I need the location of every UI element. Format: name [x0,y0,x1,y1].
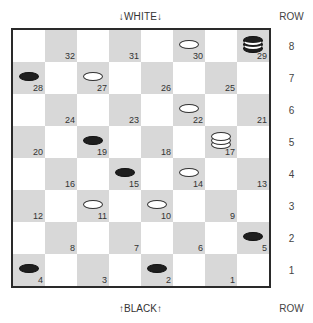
square-number: 15 [129,180,139,189]
square-number: 22 [193,116,203,125]
row-number-8: 8 [270,41,313,52]
light-square [77,158,109,190]
light-square [173,190,205,222]
light-square [13,94,45,126]
square-number: 29 [257,52,267,61]
board-square-30[interactable]: 30 [173,30,205,62]
board-square-12[interactable]: 12 [13,190,45,222]
square-number: 28 [33,84,43,93]
board-square-9[interactable]: 9 [205,190,237,222]
light-square [141,158,173,190]
board-square-29[interactable]: 29 [237,30,269,62]
square-number: 16 [65,180,75,189]
light-square [205,30,237,62]
square-number: 27 [97,84,107,93]
square-number: 3 [102,276,107,285]
light-square [109,126,141,158]
white-side-label: ↓WHITE↓ [11,11,270,22]
light-square [173,126,205,158]
light-square [141,222,173,254]
row-number-6: 6 [270,105,313,116]
square-number: 31 [129,52,139,61]
light-square [237,126,269,158]
square-number: 20 [33,148,43,157]
square-number: 23 [129,116,139,125]
board-square-24[interactable]: 24 [45,94,77,126]
row-header-bottom: ROW [270,303,313,314]
board-square-23[interactable]: 23 [109,94,141,126]
square-number: 1 [230,276,235,285]
board-square-17[interactable]: 17 [205,126,237,158]
board-square-13[interactable]: 13 [237,158,269,190]
row-number-1: 1 [270,265,313,276]
black-side-label: ↑BLACK↑ [11,303,270,314]
light-square [13,30,45,62]
square-number: 8 [70,244,75,253]
light-square [77,94,109,126]
board-square-21[interactable]: 21 [237,94,269,126]
board-square-7[interactable]: 7 [109,222,141,254]
board-square-2[interactable]: 2 [141,254,173,286]
board-square-8[interactable]: 8 [45,222,77,254]
light-square [237,190,269,222]
light-square [205,158,237,190]
board-square-1[interactable]: 1 [205,254,237,286]
board-square-31[interactable]: 31 [109,30,141,62]
square-number: 17 [225,148,235,157]
row-number-3: 3 [270,201,313,212]
square-number: 4 [38,276,43,285]
light-square [173,254,205,286]
row-number-5: 5 [270,137,313,148]
black-piece-icon[interactable] [243,222,263,254]
board-square-25[interactable]: 25 [205,62,237,94]
board-square-26[interactable]: 26 [141,62,173,94]
board-square-3[interactable]: 3 [77,254,109,286]
square-number: 12 [33,212,43,221]
light-square [205,94,237,126]
board-square-18[interactable]: 18 [141,126,173,158]
light-square [45,190,77,222]
light-square [13,158,45,190]
black-piece-icon[interactable] [19,254,39,286]
board-square-32[interactable]: 32 [45,30,77,62]
light-square [109,62,141,94]
square-number: 5 [262,244,267,253]
light-square [45,254,77,286]
square-number: 25 [225,84,235,93]
square-number: 19 [97,148,107,157]
light-square [45,62,77,94]
row-number-7: 7 [270,73,313,84]
square-number: 10 [161,212,171,221]
light-square [141,30,173,62]
board-square-19[interactable]: 19 [77,126,109,158]
board-square-28[interactable]: 28 [13,62,45,94]
light-square [237,62,269,94]
black-piece-icon[interactable] [147,254,167,286]
board-square-16[interactable]: 16 [45,158,77,190]
board-square-4[interactable]: 4 [13,254,45,286]
board-square-14[interactable]: 14 [173,158,205,190]
square-number: 18 [161,148,171,157]
square-number: 13 [257,180,267,189]
row-number-4: 4 [270,169,313,180]
square-number: 32 [65,52,75,61]
board-square-5[interactable]: 5 [237,222,269,254]
light-square [173,62,205,94]
square-number: 30 [193,52,203,61]
board-square-20[interactable]: 20 [13,126,45,158]
light-square [205,222,237,254]
board-square-22[interactable]: 22 [173,94,205,126]
square-number: 14 [193,180,203,189]
board-square-27[interactable]: 27 [77,62,109,94]
board-square-15[interactable]: 15 [109,158,141,190]
square-number: 21 [257,116,267,125]
board-square-6[interactable]: 6 [173,222,205,254]
board-square-11[interactable]: 11 [77,190,109,222]
row-header-top: ROW [270,11,313,22]
light-square [77,30,109,62]
square-number: 26 [161,84,171,93]
square-number: 6 [198,244,203,253]
board-square-10[interactable]: 10 [141,190,173,222]
checkers-board: 3231302928272625242322212019181716151413… [11,28,271,288]
square-number: 24 [65,116,75,125]
